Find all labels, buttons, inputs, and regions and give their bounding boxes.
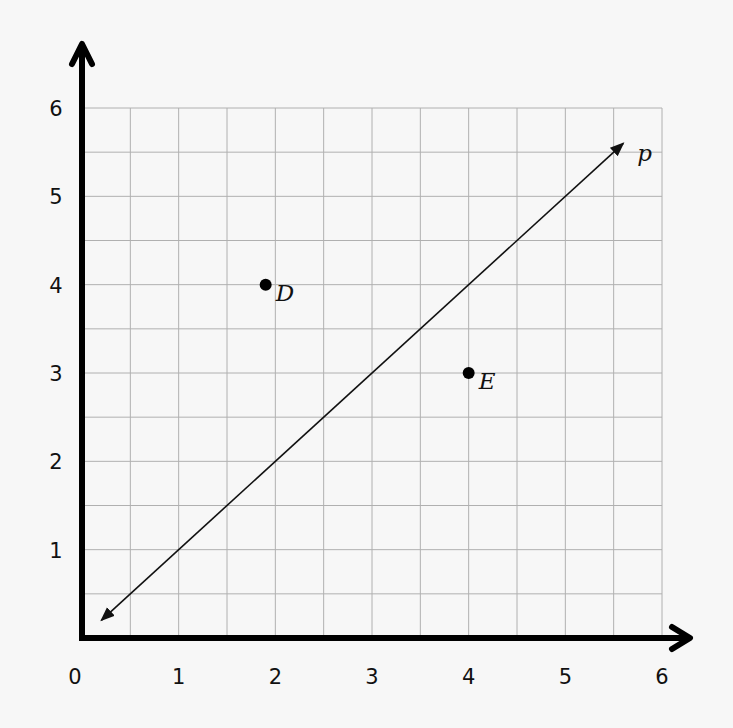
- point-E: [463, 367, 475, 379]
- point-label-D: D: [275, 280, 294, 306]
- x-tick-label: 0: [68, 665, 81, 689]
- x-tick-label: 5: [559, 665, 572, 689]
- x-tick-label: 2: [269, 665, 282, 689]
- y-tick-label: 3: [49, 362, 62, 386]
- line-label-p: p: [637, 140, 652, 166]
- coordinate-plane: 0123456123456 p DE: [0, 0, 733, 728]
- y-tick-label: 4: [49, 274, 62, 298]
- y-tick-label: 2: [49, 450, 62, 474]
- x-tick-label: 3: [365, 665, 378, 689]
- point-label-E: E: [478, 368, 496, 394]
- y-tick-label: 1: [49, 539, 62, 563]
- point-D: [260, 279, 272, 291]
- x-tick-label: 4: [462, 665, 475, 689]
- lines: p: [101, 140, 652, 620]
- y-tick-label: 5: [49, 185, 62, 209]
- points: DE: [260, 279, 496, 394]
- x-tick-label: 6: [655, 665, 668, 689]
- line-p: [101, 143, 623, 620]
- x-tick-label: 1: [172, 665, 185, 689]
- axes: [72, 44, 690, 649]
- y-tick-label: 6: [49, 97, 62, 121]
